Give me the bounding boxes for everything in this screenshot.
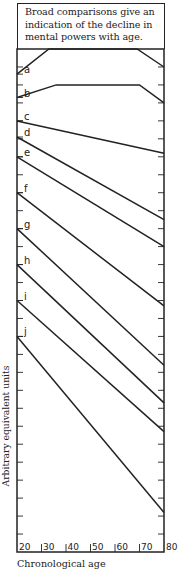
x-tick-label: 40 <box>68 542 80 552</box>
x-tick-label: 30 <box>43 542 55 552</box>
x-tick-label: 50 <box>92 542 104 552</box>
series-label-j: j <box>23 326 27 337</box>
x-tick-label: 20 <box>19 542 31 552</box>
plot-frame <box>17 49 164 552</box>
series-label-e: e <box>24 147 30 158</box>
x-tick-label: 80 <box>166 542 178 552</box>
series-line-j <box>17 336 164 512</box>
series-label-g: g <box>24 219 30 230</box>
series-line-b <box>17 85 164 103</box>
series-line-c <box>17 121 164 153</box>
data-lines <box>17 49 164 513</box>
series-line-i <box>17 301 164 432</box>
series-label-c: c <box>24 111 30 122</box>
series-label-d: d <box>24 127 30 138</box>
x-tick-labels: 20304050607080 <box>19 542 178 552</box>
x-axis-label: Chronological age <box>17 558 106 569</box>
series-line-d <box>17 137 164 220</box>
series-label-f: f <box>24 183 28 194</box>
series-label-b: b <box>24 88 30 99</box>
line-chart: abcdefghij 20304050607080 <box>0 0 178 575</box>
x-tick-label: 70 <box>141 542 153 552</box>
y-axis-label: Arbitrary equivalent units <box>0 356 12 496</box>
series-line-a <box>17 49 164 74</box>
series-label-a: a <box>24 64 30 75</box>
plot-border <box>17 49 164 552</box>
series-line-h <box>17 265 164 403</box>
series-line-e <box>17 157 164 247</box>
axis-ticks <box>17 67 164 552</box>
series-label-i: i <box>24 291 27 302</box>
series-label-h: h <box>24 255 30 266</box>
x-tick-label: 60 <box>117 542 129 552</box>
